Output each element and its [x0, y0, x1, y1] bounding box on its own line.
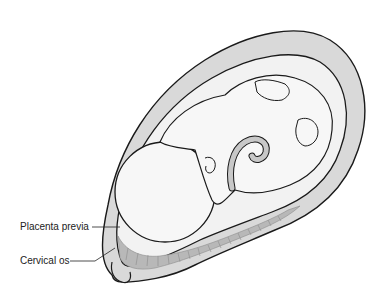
placenta-previa-diagram: Placenta previa Cervical os: [0, 0, 385, 287]
fetal-foot-lower: [296, 118, 318, 146]
label-cervical-os: Cervical os: [20, 255, 69, 266]
uterus-illustration: [0, 0, 385, 287]
label-placenta-previa: Placenta previa: [20, 221, 89, 232]
